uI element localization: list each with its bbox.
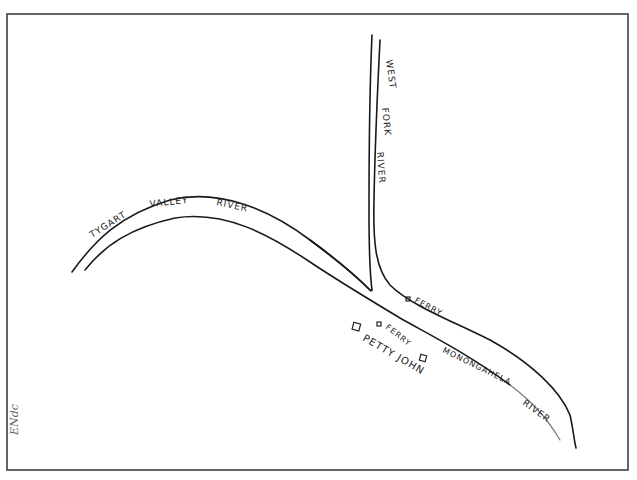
label-fork: FORK xyxy=(380,107,393,136)
label-ferry-north: FERRY xyxy=(413,296,444,318)
label-tygart-river: RIVER xyxy=(216,197,249,213)
map-border xyxy=(7,14,628,470)
river-bank-westfork-west xyxy=(369,35,372,290)
pettyjohn-house-marker-1 xyxy=(352,322,361,331)
hand-drawn-map: TYGART VALLEY RIVER WEST FORK RIVER FERR… xyxy=(0,0,637,480)
label-mon-river: RIVER xyxy=(521,398,553,425)
label-tygart: TYGART xyxy=(87,209,128,240)
river-bank-lower xyxy=(85,216,510,385)
label-monongahela: MONONGAHELA xyxy=(441,346,513,387)
ferry-south-marker xyxy=(377,322,381,326)
river-bank-monongahela-north xyxy=(374,40,576,448)
artist-signature: ENdc xyxy=(8,404,21,436)
label-west: WEST xyxy=(384,59,398,90)
confluence-point xyxy=(310,240,372,291)
river-bank-upper xyxy=(72,197,370,290)
pettyjohn-house-marker-2 xyxy=(419,354,426,361)
label-west-river: RIVER xyxy=(375,151,387,184)
label-pettyjohn: PETTY JOHN xyxy=(361,332,427,376)
label-valley: VALLEY xyxy=(149,195,189,209)
